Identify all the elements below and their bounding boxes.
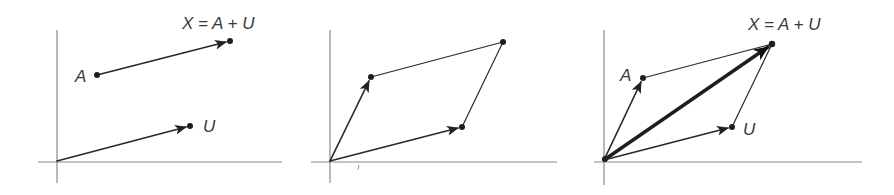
point-a [368, 74, 374, 80]
side-a-to-x [371, 42, 503, 77]
axis-tick-mark [358, 165, 359, 170]
point-x [769, 41, 775, 47]
vector-u [57, 127, 186, 161]
side-u-to-x [462, 42, 503, 127]
vector-u [604, 128, 728, 160]
point-a [94, 72, 100, 78]
panel-2 [311, 30, 557, 183]
panel-1: U A X = A + U [38, 14, 282, 183]
point-a [640, 75, 646, 81]
panel-3: A U X = A + U [594, 15, 862, 185]
vector-addition-figure: U A X = A + U A [0, 0, 894, 195]
point-u [459, 124, 465, 130]
side-a-to-x [643, 44, 772, 78]
point-x [500, 39, 506, 45]
vector-a-to-x [97, 42, 226, 75]
label-a: A [74, 67, 86, 86]
label-x-equals-a-plus-u: X = A + U [181, 14, 255, 33]
label-x-equals-a-plus-u: X = A + U [747, 15, 821, 34]
vector-u [330, 128, 458, 161]
vector-a [330, 81, 369, 161]
label-u: U [203, 117, 216, 136]
origin-point [602, 156, 608, 162]
label-u: U [743, 120, 756, 139]
point-x [227, 38, 233, 44]
point-u [187, 123, 193, 129]
label-a: A [619, 66, 631, 85]
point-u [729, 124, 735, 130]
